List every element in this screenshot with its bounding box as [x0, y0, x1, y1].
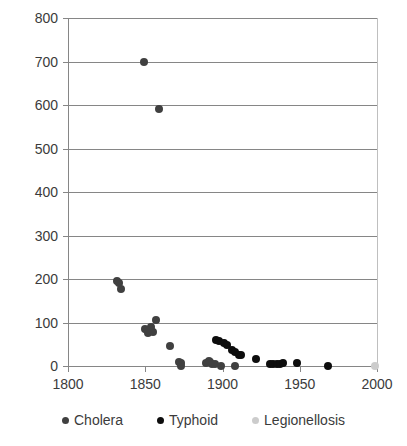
data-point-typhoid [324, 362, 332, 370]
y-tick-label-500: 500 [35, 142, 58, 156]
legend-item-cholera[interactable]: Cholera [62, 412, 123, 428]
y-tick-mark-200 [63, 279, 69, 280]
legend-label: Cholera [74, 412, 123, 428]
data-point-cholera [166, 342, 174, 350]
y-tick-label-200: 200 [35, 272, 58, 286]
legend-marker-icon [157, 417, 164, 424]
x-tick-mark-1800 [68, 366, 69, 372]
data-point-typhoid [237, 351, 245, 359]
data-point-cholera [231, 362, 239, 370]
y-tick-mark-400 [63, 192, 69, 193]
gridline-y-700 [68, 62, 377, 63]
right-border-line [377, 18, 378, 366]
legend-label: Legionellosis [264, 412, 345, 428]
gridline-y-600 [68, 105, 377, 106]
y-tick-label-300: 300 [35, 229, 58, 243]
y-tick-label-700: 700 [35, 55, 58, 69]
x-tick-label-1950: 1950 [284, 377, 315, 391]
y-tick-mark-800 [63, 18, 69, 19]
legend-marker-icon [62, 417, 69, 424]
x-tick-label-1900: 1900 [207, 377, 238, 391]
y-tick-mark-300 [63, 236, 69, 237]
scatter-chart-figure: 0100200300400500600700800180018501900195… [0, 0, 407, 446]
legend-item-legionellosis[interactable]: Legionellosis [252, 412, 345, 428]
data-point-cholera [177, 362, 185, 370]
y-tick-mark-500 [63, 149, 69, 150]
gridline-y-800 [68, 18, 377, 19]
legend-marker-icon [252, 417, 259, 424]
gridline-y-100 [68, 323, 377, 324]
y-tick-mark-600 [63, 105, 69, 106]
plot-area [68, 18, 377, 366]
y-tick-label-800: 800 [35, 11, 58, 25]
data-point-cholera [117, 285, 125, 293]
x-tick-mark-1850 [145, 366, 146, 372]
legend-label: Typhoid [169, 412, 218, 428]
y-tick-label-0: 0 [50, 359, 58, 373]
gridline-y-400 [68, 192, 377, 193]
x-tick-label-1800: 1800 [52, 377, 83, 391]
x-tick-label-1850: 1850 [130, 377, 161, 391]
data-point-legionellosis [371, 362, 379, 370]
data-point-cholera [155, 105, 163, 113]
gridline-y-500 [68, 149, 377, 150]
y-tick-mark-100 [63, 323, 69, 324]
chart-legend: CholeraTyphoidLegionellosis [0, 408, 407, 432]
y-tick-label-400: 400 [35, 185, 58, 199]
y-tick-label-600: 600 [35, 98, 58, 112]
data-point-cholera [149, 328, 157, 336]
y-tick-label-100: 100 [35, 316, 58, 330]
x-tick-label-2000: 2000 [361, 377, 392, 391]
data-point-cholera [140, 58, 148, 66]
data-point-typhoid [252, 355, 260, 363]
x-tick-mark-1950 [300, 366, 301, 372]
data-point-typhoid [279, 359, 287, 367]
y-tick-mark-700 [63, 62, 69, 63]
legend-item-typhoid[interactable]: Typhoid [157, 412, 218, 428]
data-point-typhoid [293, 359, 301, 367]
data-point-cholera [217, 362, 225, 370]
data-point-cholera [152, 316, 160, 324]
gridline-y-300 [68, 236, 377, 237]
